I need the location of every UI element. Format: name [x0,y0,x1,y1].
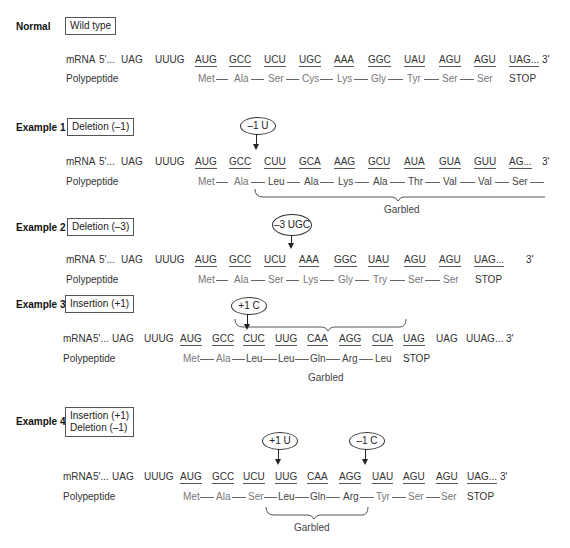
amino-acid: Met [198,274,215,285]
arrow-head-icon [288,243,294,249]
amino-acid: Tyr [376,491,390,502]
polypeptide-label: Polypeptide [63,353,115,364]
post-codon: UAG [436,333,458,344]
codon: AUG [195,254,217,267]
codon: UUG [275,333,297,346]
arrow-head-icon [275,459,281,465]
mutation-bubble: +1 C [231,297,267,315]
amino-acid: Met [183,491,200,502]
pre-codon: UUUG [155,254,184,265]
amino-acid: Try [373,274,387,285]
codon: CUC [243,333,265,346]
amino-acid: Gln [310,491,326,502]
five-prime-label: 5'... [99,254,115,265]
pre-codon: UAG [112,471,134,482]
amino-acid: Gln [310,353,326,364]
amino-acid: Leu [246,353,263,364]
amino-acid: Ala [216,491,230,502]
amino-acid: Ser [248,491,264,502]
mrna-label: mRNA [66,254,95,265]
mutation-type-box: Insertion (+1) [65,295,134,313]
codon: UAG [403,333,425,346]
codon: UUG [275,471,297,484]
amino-acid: Leu [278,353,295,364]
amino-acid: Leu [375,353,392,364]
codon: AGG [339,333,361,346]
codon: UAU [372,471,393,484]
codon: UAG... [467,471,497,484]
pre-codon: UAG [112,333,134,344]
mutation-type-box: Insertion (+1) Deletion (–1) [65,407,134,437]
codon: UAG... [474,254,504,267]
garbled-label: Garbled [384,204,420,215]
amino-acid: Ser [408,274,424,285]
five-prime-label: 5'... [93,471,109,482]
codon: UCU [264,254,286,267]
stop-label: STOP [475,274,502,285]
three-prime-label: 3' [506,333,513,344]
section-label-example-2: Example 2 [16,222,65,233]
five-prime-label: 5'... [93,333,109,344]
codon: CUA [372,333,393,346]
amino-acid: Ser [408,491,424,502]
pre-codon: UUUG [144,333,173,344]
mutation-type-line: Deletion (–1) [70,422,129,434]
amino-acid: Ala [234,274,248,285]
amino-acid: Ala [216,353,230,364]
codon: GCC [212,333,234,346]
section-label-example-4: Example 4 [16,416,65,427]
stop-label: STOP [467,491,494,502]
mutation-type-box: Deletion (–3) [67,218,134,236]
amino-acid: Ser [443,274,459,285]
polypeptide-label: Polypeptide [63,491,115,502]
arrow-head-icon [244,324,250,330]
codon: AGU [404,254,426,267]
amino-acid: Gly [338,274,353,285]
codon: CAA [307,471,328,484]
arrow-head-icon [362,459,368,465]
three-prime-label: 3' [500,471,507,482]
codon: AGU [439,254,461,267]
amino-acid: Ser [268,274,284,285]
codon: AUG [180,471,202,484]
mrna-label: mRNA [63,333,92,344]
codon: UAU [368,254,389,267]
amino-acid: Lys [303,274,318,285]
codon: AGG [339,471,361,484]
mrna-label: mRNA [63,471,92,482]
garbled-label: Garbled [308,372,344,383]
mutation-bubble: –1 C [349,432,385,450]
codon: UCU [243,471,265,484]
codon: CAA [307,333,328,346]
mutation-type-line: Insertion (+1) [70,410,129,422]
section-label-example-3: Example 3 [16,299,65,310]
codon: AAA [299,254,319,267]
polypeptide-label: Polypeptide [66,274,118,285]
garbled-label: Garbled [294,522,330,533]
codon: GCC [229,254,251,267]
codon: GCC [212,471,234,484]
codon: AGU [436,471,458,484]
codon: GGC [334,254,357,267]
amino-acid: Leu [278,491,295,502]
amino-acid: Ser [441,491,457,502]
pre-codon: UUUG [144,471,173,482]
pre-codon: UAG [121,254,143,265]
codon: AUG [180,333,202,346]
amino-acid: Met [183,353,200,364]
mutation-bubble: –3 UGC [272,214,312,236]
amino-acid: Arg [343,491,359,502]
three-prime-label: 3' [526,254,533,265]
amino-acid: Arg [342,353,358,364]
mutation-bubble: +1 U [262,432,298,450]
post-codon: UUAG... [466,333,503,344]
stop-label: STOP [403,353,430,364]
codon: AGU [403,471,425,484]
